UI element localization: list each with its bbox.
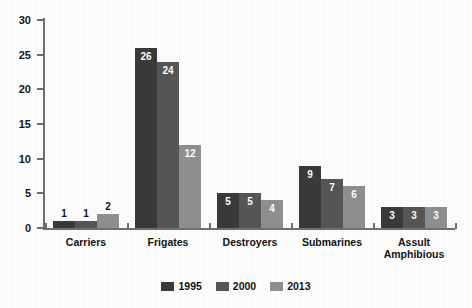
y-axis-tick-label: 20 — [5, 84, 31, 94]
bar-group: 262412 — [135, 20, 201, 228]
x-axis-category-label: Submarines — [291, 236, 373, 248]
legend-label: 2013 — [287, 281, 310, 291]
x-axis-line — [43, 228, 455, 230]
bar-value-label: 3 — [403, 211, 425, 221]
bar: 3 — [425, 207, 447, 228]
y-axis-tick-mark — [37, 192, 43, 194]
x-axis-category-label-line: Carriers — [45, 236, 127, 248]
x-axis-category-label-line: Destroyers — [209, 236, 291, 248]
y-axis-tick-mark — [37, 19, 43, 21]
bar-value-label: 3 — [425, 211, 447, 221]
bar-value-label: 3 — [381, 211, 403, 221]
y-axis-tick-label: 5 — [5, 188, 31, 198]
bar-value-label: 6 — [343, 190, 365, 200]
bar-value-label: 4 — [261, 204, 283, 214]
bar: 26 — [135, 48, 157, 228]
legend-item: 1995 — [161, 281, 201, 291]
bar: 2 — [97, 214, 119, 228]
bar: 5 — [239, 193, 261, 228]
x-axis-category-label: Carriers — [45, 236, 127, 248]
y-axis-tick-mark — [37, 158, 43, 160]
legend-color-swatch — [216, 282, 229, 291]
x-axis-category-label: Destroyers — [209, 236, 291, 248]
bar: 5 — [217, 193, 239, 228]
x-axis-category-label-line: Assult — [373, 236, 455, 248]
x-axis-category-label-line: Frigates — [127, 236, 209, 248]
bar: 1 — [53, 221, 75, 228]
bar-value-label: 26 — [135, 52, 157, 62]
bar-group: 554 — [217, 20, 283, 228]
x-axis-separator-tick — [455, 223, 457, 229]
legend-label: 1995 — [178, 281, 201, 291]
legend-item: 2000 — [216, 281, 256, 291]
bar-value-label: 1 — [53, 209, 75, 219]
bar-value-label: 2 — [97, 202, 119, 212]
bar-value-label: 24 — [157, 66, 179, 76]
y-axis-tick-label: 15 — [5, 119, 31, 129]
y-axis-tick-label: 25 — [5, 50, 31, 60]
bar-value-label: 5 — [217, 197, 239, 207]
y-axis-tick-label: 10 — [5, 154, 31, 164]
bar-value-label: 1 — [75, 209, 97, 219]
bar-value-label: 5 — [239, 197, 261, 207]
legend-label: 2000 — [233, 281, 256, 291]
bar-group: 976 — [299, 20, 365, 228]
bar-value-label: 9 — [299, 170, 321, 180]
legend-item: 2013 — [270, 281, 310, 291]
plot-area: 112262412554976333 — [45, 20, 455, 228]
legend-color-swatch — [270, 282, 283, 291]
bar: 1 — [75, 221, 97, 228]
bar-chart: 302520151050 112262412554976333 Carriers… — [0, 0, 472, 308]
y-axis-tick-mark — [37, 54, 43, 56]
legend-color-swatch — [161, 282, 174, 291]
bar-group: 333 — [381, 20, 447, 228]
y-axis-tick-mark — [37, 123, 43, 125]
bar: 3 — [403, 207, 425, 228]
y-axis-tick-mark — [37, 88, 43, 90]
bar-group: 112 — [53, 20, 119, 228]
x-axis-category-label: Frigates — [127, 236, 209, 248]
bar-value-label: 12 — [179, 149, 201, 159]
bar: 3 — [381, 207, 403, 228]
bar: 7 — [321, 179, 343, 228]
y-axis-tick-label: 0 — [5, 223, 31, 233]
x-axis-category-label: AssultAmphibious — [373, 236, 455, 260]
y-axis-tick-label: 30 — [5, 15, 31, 25]
bar: 6 — [343, 186, 365, 228]
y-axis-tick-mark — [37, 227, 43, 229]
bar: 24 — [157, 62, 179, 228]
bar: 12 — [179, 145, 201, 228]
x-axis-category-label-line: Submarines — [291, 236, 373, 248]
bar-value-label: 7 — [321, 183, 343, 193]
bar: 4 — [261, 200, 283, 228]
chart-legend: 199520002013 — [0, 281, 472, 291]
x-axis-category-label-line: Amphibious — [373, 248, 455, 260]
bar: 9 — [299, 166, 321, 228]
